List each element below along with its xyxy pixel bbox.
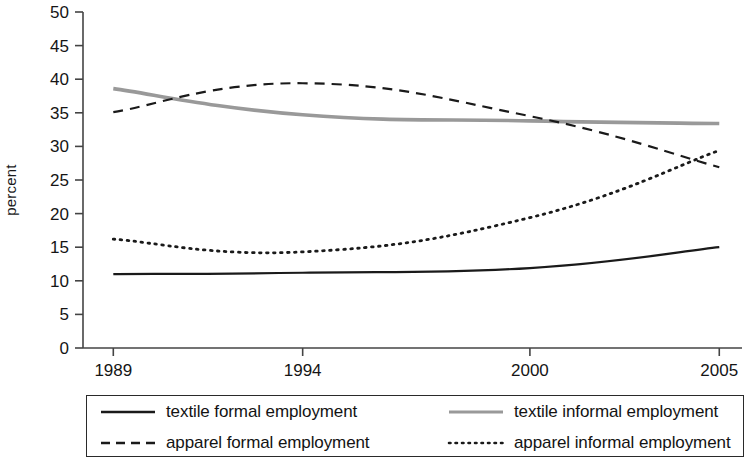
series-line <box>113 150 719 252</box>
legend-swatch-solid-gray-icon <box>447 405 505 419</box>
y-tick-label: 25 <box>50 171 69 190</box>
plot-area: percent 05101520253035404550 19891994200… <box>0 0 750 380</box>
legend-item-textile-informal: textile informal employment <box>443 396 745 427</box>
legend-label-textile-formal: textile formal employment <box>166 402 357 422</box>
legend-item-textile-formal: textile formal employment <box>87 396 443 427</box>
y-tick-label: 5 <box>60 305 69 324</box>
legend-swatch-solid-black-icon <box>99 405 157 419</box>
legend-label-apparel-informal: apparel informal employment <box>514 433 731 453</box>
legend-label-apparel-formal: apparel formal employment <box>166 433 369 453</box>
x-tick-label: 2005 <box>700 361 738 380</box>
legend-item-apparel-informal: apparel informal employment <box>443 427 745 458</box>
chart-figure: percent 05101520253035404550 19891994200… <box>0 0 750 465</box>
legend-item-apparel-formal: apparel formal employment <box>87 427 443 458</box>
x-axis-ticks: 1989199420002005 <box>94 348 738 380</box>
y-tick-label: 10 <box>50 272 69 291</box>
legend-label-textile-informal: textile informal employment <box>514 402 718 422</box>
y-tick-label: 45 <box>50 37 69 56</box>
chart-legend: textile formal employment textile inform… <box>86 395 744 457</box>
y-tick-label: 35 <box>50 104 69 123</box>
x-tick-label: 1994 <box>284 361 322 380</box>
line-chart-svg: 05101520253035404550 1989199420002005 <box>0 0 750 380</box>
y-axis-ticks: 05101520253035404550 <box>50 3 83 358</box>
data-series-group <box>113 83 719 274</box>
y-tick-label: 50 <box>50 3 69 22</box>
y-tick-label: 20 <box>50 205 69 224</box>
y-tick-label: 0 <box>60 339 69 358</box>
y-axis-label: percent <box>2 130 19 250</box>
y-tick-label: 15 <box>50 238 69 257</box>
y-tick-label: 40 <box>50 70 69 89</box>
legend-swatch-dotted-icon <box>447 436 505 450</box>
y-tick-label: 30 <box>50 137 69 156</box>
x-tick-label: 1989 <box>94 361 132 380</box>
x-tick-label: 2000 <box>511 361 549 380</box>
legend-swatch-dashed-icon <box>99 436 157 450</box>
series-line <box>113 83 719 167</box>
